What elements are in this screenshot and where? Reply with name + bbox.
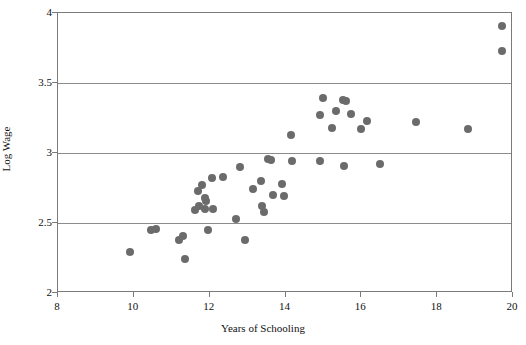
- data-point: [269, 191, 277, 199]
- x-tick-mark: [133, 292, 134, 297]
- y-tick-mark: [52, 222, 57, 223]
- data-point: [363, 117, 371, 125]
- y-tick-label: 2.5: [22, 217, 52, 228]
- gridline-y: [58, 83, 511, 84]
- data-point: [332, 107, 340, 115]
- x-tick-label: 16: [340, 300, 380, 312]
- y-tick-label: 3.5: [22, 77, 52, 88]
- data-point: [278, 180, 286, 188]
- x-tick-mark: [360, 292, 361, 297]
- data-point: [191, 206, 199, 214]
- data-point: [198, 181, 206, 189]
- data-point: [202, 197, 210, 205]
- data-point: [204, 226, 212, 234]
- y-tick-label: 2: [22, 287, 52, 298]
- data-point: [328, 124, 336, 132]
- data-point: [208, 174, 216, 182]
- y-tick-mark: [52, 82, 57, 83]
- data-point: [376, 160, 384, 168]
- data-point: [219, 173, 227, 181]
- scatter-plot-figure: 22.533.54 8101214161820 Years of Schooli…: [0, 0, 526, 345]
- x-axis-label: Years of Schooling: [0, 322, 526, 335]
- data-point: [288, 157, 296, 165]
- data-point: [152, 225, 160, 233]
- data-point: [287, 131, 295, 139]
- y-tick-label: 4: [22, 7, 52, 18]
- x-tick-label: 10: [113, 300, 153, 312]
- data-point: [498, 22, 506, 30]
- x-tick-label: 12: [189, 300, 229, 312]
- x-tick-mark: [512, 292, 513, 297]
- data-point: [347, 110, 355, 118]
- x-tick-label: 14: [265, 300, 305, 312]
- data-point: [209, 205, 217, 213]
- data-point: [316, 157, 324, 165]
- gridline-y: [58, 223, 511, 224]
- y-axis-tick-labels: 22.533.54: [10, 0, 52, 345]
- data-point: [412, 118, 420, 126]
- data-point: [316, 111, 324, 119]
- data-point: [179, 232, 187, 240]
- data-point: [267, 156, 275, 164]
- data-point: [257, 177, 265, 185]
- data-point: [232, 215, 240, 223]
- data-point: [260, 208, 268, 216]
- x-tick-mark: [436, 292, 437, 297]
- data-point: [319, 94, 327, 102]
- data-point: [236, 163, 244, 171]
- data-point: [498, 47, 506, 55]
- data-point: [464, 125, 472, 133]
- data-point: [201, 205, 209, 213]
- data-point: [181, 255, 189, 263]
- gridline-y: [58, 153, 511, 154]
- y-tick-mark: [52, 12, 57, 13]
- y-axis-label: Log Wage: [0, 109, 12, 189]
- x-tick-mark: [209, 292, 210, 297]
- x-tick-label: 8: [37, 300, 77, 312]
- data-point: [249, 185, 257, 193]
- data-point: [280, 192, 288, 200]
- x-tick-mark: [285, 292, 286, 297]
- data-point: [342, 97, 350, 105]
- data-point: [357, 125, 365, 133]
- x-tick-mark: [57, 292, 58, 297]
- data-point: [241, 236, 249, 244]
- data-point: [340, 162, 348, 170]
- plot-area: [57, 12, 512, 292]
- x-tick-label: 18: [416, 300, 456, 312]
- y-tick-label: 3: [22, 147, 52, 158]
- y-tick-mark: [52, 152, 57, 153]
- data-point: [126, 248, 134, 256]
- x-tick-label: 20: [492, 300, 526, 312]
